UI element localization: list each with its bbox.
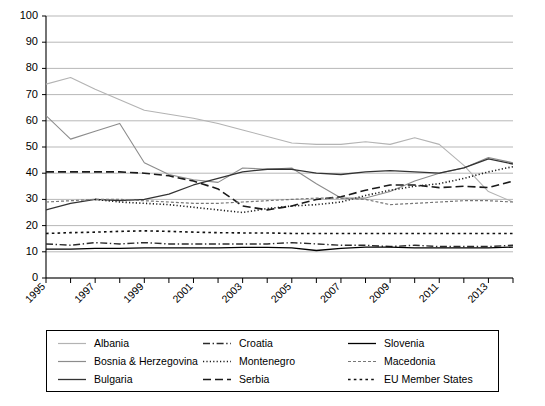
legend-item-bosnia-herzegovina[interactable]: Bosnia & Herzegovina bbox=[57, 356, 202, 367]
x-axis-label: 2005 bbox=[268, 280, 293, 305]
y-axis-label: 60 bbox=[26, 114, 38, 126]
x-axis-label: 2013 bbox=[465, 280, 490, 305]
series-line-eu-member-states bbox=[46, 231, 513, 234]
x-axis-label: 1995 bbox=[22, 280, 47, 305]
y-axis-label: 20 bbox=[26, 219, 38, 231]
y-axis-label: 90 bbox=[26, 35, 38, 47]
legend-item-eu-member-states[interactable]: EU Member States bbox=[347, 374, 492, 385]
series-line-croatia bbox=[46, 243, 513, 247]
y-axis-label: 30 bbox=[26, 192, 38, 204]
y-axis-label: 10 bbox=[26, 245, 38, 257]
legend-label-albania: Albania bbox=[94, 338, 129, 349]
y-axis-label: 70 bbox=[26, 88, 38, 100]
legend-label-bosnia-herzegovina: Bosnia & Herzegovina bbox=[94, 356, 198, 367]
legend-swatch-montenegro bbox=[202, 356, 232, 367]
x-axis-label: 2011 bbox=[416, 280, 441, 305]
x-axis-label: 1999 bbox=[121, 280, 146, 305]
legend-item-macedonia[interactable]: Macedonia bbox=[347, 356, 492, 367]
legend-label-montenegro: Montenegro bbox=[239, 356, 295, 367]
y-axis-label: 40 bbox=[26, 166, 38, 178]
legend-label-croatia: Croatia bbox=[239, 338, 273, 349]
legend-item-croatia[interactable]: Croatia bbox=[202, 338, 347, 349]
legend-swatch-eu-member-states bbox=[347, 374, 377, 385]
x-axis-label: 2009 bbox=[367, 280, 392, 305]
y-axis-label: 50 bbox=[26, 140, 38, 152]
legend-item-albania[interactable]: Albania bbox=[57, 338, 202, 349]
legend-swatch-macedonia bbox=[347, 356, 377, 367]
legend-swatch-bosnia-herzegovina bbox=[57, 356, 87, 367]
y-axis-label: 100 bbox=[20, 9, 38, 21]
x-axis-label: 2007 bbox=[317, 280, 342, 305]
line-chart: 0102030405060708090100199519971999200120… bbox=[0, 0, 545, 406]
legend-swatch-croatia bbox=[202, 338, 232, 349]
plot-area: 0102030405060708090100199519971999200120… bbox=[0, 0, 545, 330]
x-axis-label: 2001 bbox=[170, 280, 195, 305]
x-axis-label: 2003 bbox=[219, 280, 244, 305]
plot-svg: 0102030405060708090100199519971999200120… bbox=[0, 0, 545, 330]
series-line-bosnia-herzegovina bbox=[46, 116, 513, 199]
series-line-slovenia bbox=[46, 247, 513, 250]
legend-item-serbia[interactable]: Serbia bbox=[202, 374, 347, 385]
y-axis-label: 80 bbox=[26, 61, 38, 73]
chart-legend: AlbaniaCroatiaSloveniaBosnia & Herzegovi… bbox=[46, 330, 499, 392]
legend-item-bulgaria[interactable]: Bulgaria bbox=[57, 374, 202, 385]
legend-label-macedonia: Macedonia bbox=[384, 356, 435, 367]
legend-item-slovenia[interactable]: Slovenia bbox=[347, 338, 492, 349]
legend-label-eu-member-states: EU Member States bbox=[384, 374, 473, 385]
legend-swatch-bulgaria bbox=[57, 374, 87, 385]
legend-label-serbia: Serbia bbox=[239, 374, 269, 385]
series-line-serbia bbox=[46, 172, 513, 210]
legend-swatch-serbia bbox=[202, 374, 232, 385]
legend-swatch-slovenia bbox=[347, 338, 377, 349]
legend-item-montenegro[interactable]: Montenegro bbox=[202, 356, 347, 367]
legend-swatch-albania bbox=[57, 338, 87, 349]
x-axis-label: 1997 bbox=[72, 280, 97, 305]
legend-label-bulgaria: Bulgaria bbox=[94, 374, 133, 385]
legend-label-slovenia: Slovenia bbox=[384, 338, 424, 349]
